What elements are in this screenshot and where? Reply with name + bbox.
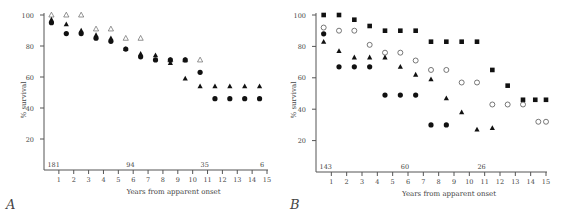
data-point <box>257 84 262 89</box>
x-tick-label: 10 <box>465 178 473 186</box>
data-point <box>428 122 433 127</box>
data-point <box>459 80 464 85</box>
data-point <box>321 13 326 18</box>
data-point <box>93 26 98 31</box>
data-point <box>321 25 326 30</box>
x-tick-label: 9 <box>176 176 180 184</box>
data-point <box>367 55 372 60</box>
data-point <box>398 64 403 69</box>
x-tick-label: 4 <box>375 178 379 186</box>
data-point <box>444 95 449 100</box>
data-point <box>123 47 128 52</box>
y-tick-label: 100 <box>22 12 34 20</box>
y-tick-label: 60 <box>26 74 34 82</box>
data-point <box>413 58 418 63</box>
data-point <box>398 28 403 33</box>
data-point <box>475 39 480 44</box>
data-point <box>108 39 113 44</box>
y-axis-label: % survival <box>290 81 298 119</box>
data-point <box>505 83 510 88</box>
series-filled-triangle <box>321 39 495 132</box>
count-annotation: 35 <box>201 161 209 169</box>
x-tick-label: 1 <box>329 178 333 186</box>
x-tick-label: 6 <box>406 178 410 186</box>
x-tick-label: 13 <box>233 176 241 184</box>
count-annotation: 94 <box>126 161 134 169</box>
panel-b: 204060801001234567891011121314151436026Y… <box>289 12 550 213</box>
data-point <box>183 76 188 81</box>
data-point <box>413 72 418 77</box>
data-point <box>367 24 372 29</box>
data-point <box>321 39 326 44</box>
data-point <box>138 35 143 40</box>
data-point <box>382 55 387 60</box>
data-point <box>123 35 128 40</box>
data-point <box>490 125 495 130</box>
data-point <box>198 70 203 75</box>
data-point <box>227 84 232 89</box>
data-point <box>93 36 98 41</box>
data-point <box>79 31 84 36</box>
data-point <box>212 96 217 101</box>
data-point <box>474 127 479 132</box>
count-annotation: 60 <box>401 163 409 171</box>
x-tick-label: 12 <box>218 176 226 184</box>
data-point <box>64 12 69 17</box>
data-point <box>153 57 158 62</box>
data-point <box>544 119 549 124</box>
data-point <box>536 119 541 124</box>
data-point <box>459 110 464 115</box>
series-filled-triangle <box>49 17 262 88</box>
data-point <box>398 50 403 55</box>
data-point <box>444 122 449 127</box>
x-tick-label: 14 <box>527 178 535 186</box>
data-point <box>413 92 418 97</box>
data-point <box>352 55 357 60</box>
count-annotation: 143 <box>320 163 332 171</box>
x-tick-label: 15 <box>542 178 550 186</box>
x-tick-label: 8 <box>437 178 441 186</box>
x-tick-label: 2 <box>72 176 76 184</box>
data-point <box>475 80 480 85</box>
data-point <box>242 96 247 101</box>
series-open-circle <box>321 25 548 124</box>
data-point <box>242 84 247 89</box>
data-point <box>108 26 113 31</box>
data-point <box>533 97 538 102</box>
data-point <box>521 97 526 102</box>
x-tick-label: 3 <box>87 176 91 184</box>
x-tick-label: 3 <box>360 178 364 186</box>
x-tick-label: 4 <box>101 176 105 184</box>
data-point <box>383 28 388 33</box>
x-tick-label: 11 <box>481 178 489 186</box>
data-point <box>352 28 357 33</box>
data-point <box>321 31 326 36</box>
panel-label: A <box>5 197 15 212</box>
data-point <box>429 39 434 44</box>
survival-figure: 2040608010012345678910111213141518194356… <box>0 0 567 220</box>
y-tick-label: 20 <box>298 137 306 145</box>
data-point <box>337 13 342 18</box>
data-point <box>168 57 173 62</box>
data-point <box>138 54 143 59</box>
panel-label: B <box>289 197 300 212</box>
x-tick-label: 12 <box>496 178 504 186</box>
data-point <box>444 39 449 44</box>
panel-a: 2040608010012345678910111213141518194356… <box>5 12 271 213</box>
count-annotation: 181 <box>47 161 59 169</box>
data-point <box>257 96 262 101</box>
x-tick-label: 5 <box>391 178 395 186</box>
data-point <box>383 50 388 55</box>
data-point <box>337 28 342 33</box>
x-axis-label: Years from apparent onset <box>125 188 220 196</box>
data-point <box>49 12 54 17</box>
series-filled-circle <box>49 20 262 101</box>
y-tick-label: 40 <box>298 106 306 114</box>
data-point <box>413 28 418 33</box>
count-annotation: 26 <box>477 163 485 171</box>
x-tick-label: 6 <box>131 176 135 184</box>
data-point <box>212 84 217 89</box>
data-point <box>352 17 357 22</box>
count-annotation: 6 <box>260 161 264 169</box>
y-axis-label: % survival <box>20 81 28 119</box>
